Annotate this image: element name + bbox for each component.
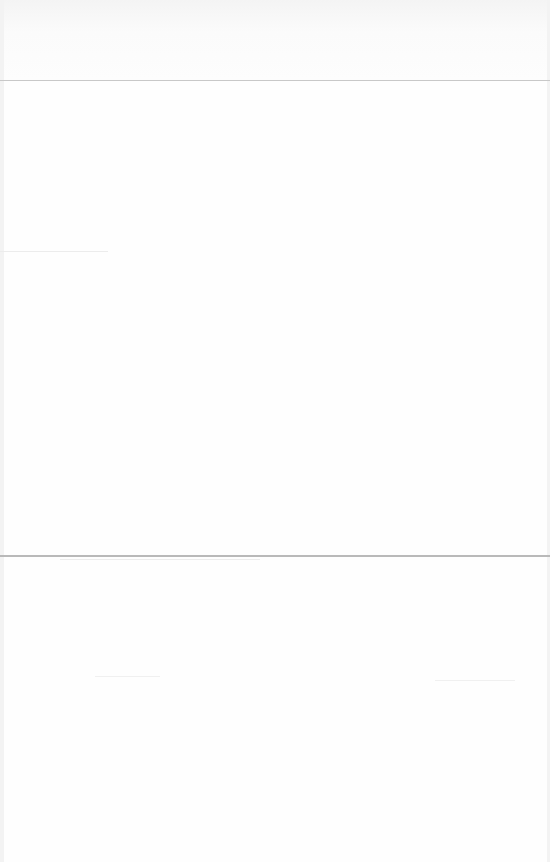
header-band bbox=[0, 0, 550, 80]
lower-panel bbox=[0, 557, 550, 862]
faint-rule bbox=[95, 676, 160, 677]
upper-panel bbox=[0, 81, 550, 555]
faint-rule bbox=[435, 680, 515, 681]
